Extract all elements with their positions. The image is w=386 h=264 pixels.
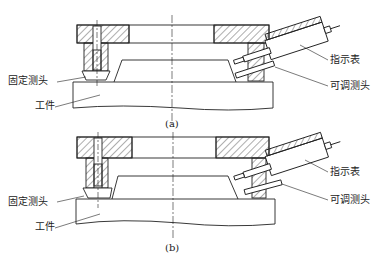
label-workpiece-a: 工件	[35, 100, 55, 112]
caption-a: (a)	[165, 118, 179, 130]
diagram-root: 固定测头 工件 指示表 可调测头 (a) 固定测头 工件 指示表 可调测头 (b…	[0, 0, 386, 264]
label-adjustable-probe-b: 可调测头	[330, 194, 370, 206]
label-fixed-probe-a: 固定测头	[8, 75, 48, 87]
diagram-svg	[0, 0, 386, 264]
label-indicator-a: 指示表	[330, 54, 360, 66]
caption-b: (b)	[165, 242, 179, 254]
figure-a	[55, 11, 343, 125]
label-indicator-b: 指示表	[330, 166, 360, 178]
label-adjustable-probe-a: 可调测头	[330, 80, 370, 92]
label-workpiece-b: 工件	[35, 221, 55, 233]
label-fixed-probe-b: 固定测头	[8, 196, 48, 208]
figure-b	[55, 127, 344, 240]
